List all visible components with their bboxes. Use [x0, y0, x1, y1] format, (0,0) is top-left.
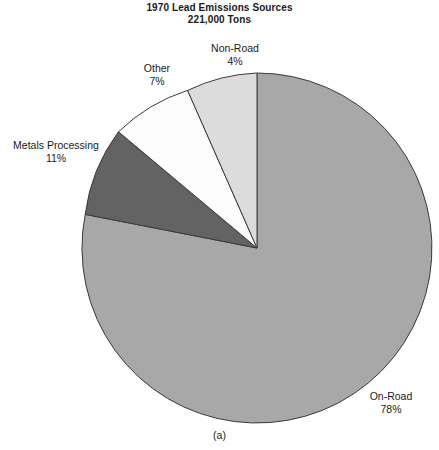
pie-label-other-name: Other [127, 62, 187, 75]
pie-label-non-road: Non-Road 4% [193, 42, 277, 67]
pie-label-other-pct: 7% [127, 75, 187, 88]
pie-label-non-road-name: Non-Road [193, 42, 277, 55]
pie-label-other: Other 7% [127, 62, 187, 87]
pie-label-metals-processing-name: Metals Processing [8, 139, 104, 152]
pie-chart-canvas [0, 0, 439, 450]
pie-label-on-road: On-Road 78% [358, 390, 424, 415]
figure-caption: (a) [0, 429, 439, 441]
pie-label-on-road-name: On-Road [358, 390, 424, 403]
pie-label-on-road-pct: 78% [358, 403, 424, 416]
pie-label-metals-processing: Metals Processing 11% [8, 139, 104, 164]
pie-label-non-road-pct: 4% [193, 55, 277, 68]
pie-label-metals-processing-pct: 11% [8, 152, 104, 165]
figure-pie-chart: 1970 Lead Emissions Sources 221,000 Tons… [0, 0, 439, 450]
